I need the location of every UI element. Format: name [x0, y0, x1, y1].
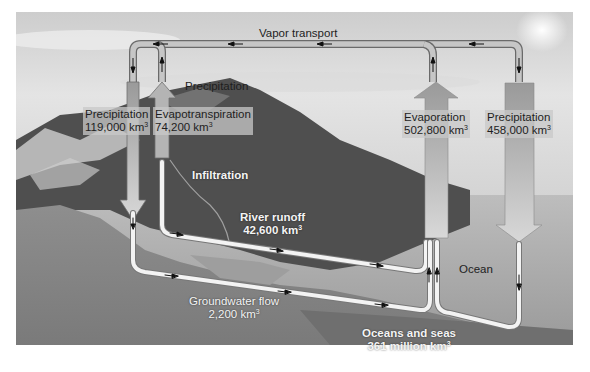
oceans-and-seas-name: Oceans and seas	[362, 327, 456, 340]
precipitation-top-label: Precipitation	[185, 80, 248, 93]
groundwater-flow-name: Groundwater flow	[189, 295, 279, 308]
evapotranspiration-name: Evapotranspiration	[155, 108, 251, 121]
groundwater-flow-label: Groundwater flow 2,200 km3	[189, 295, 279, 321]
precipitation-land-name: Precipitation	[85, 108, 148, 121]
river-runoff-label: River runoff 42,600 km3	[240, 211, 305, 237]
evapotranspiration-value: 74,200 km3	[155, 121, 251, 134]
evaporation-name: Evaporation	[404, 111, 468, 124]
river-runoff-name: River runoff	[240, 211, 305, 224]
evaporation-label: Evaporation 502,800 km3	[402, 110, 470, 138]
evapotranspiration-label: Evapotranspiration 74,200 km3	[153, 107, 253, 135]
evaporation-value: 502,800 km3	[404, 124, 468, 137]
precipitation-land-label: Precipitation 119,000 km3	[83, 107, 150, 135]
precipitation-ocean-label: Precipitation 458,000 km3	[485, 110, 553, 138]
oceans-and-seas-value: 361 million km3	[362, 340, 456, 353]
vapor-transport-label: Vapor transport	[259, 27, 337, 40]
water-cycle-diagram	[0, 0, 590, 372]
oceans-and-seas-label: Oceans and seas 361 million km3	[362, 327, 456, 353]
groundwater-flow-value: 2,200 km3	[189, 308, 279, 321]
sun	[516, 8, 568, 52]
infiltration-label: Infiltration	[192, 169, 248, 182]
precipitation-ocean-name: Precipitation	[487, 111, 551, 124]
precipitation-land-value: 119,000 km3	[85, 121, 148, 134]
ocean-label: Ocean	[459, 263, 493, 276]
precipitation-ocean-value: 458,000 km3	[487, 124, 551, 137]
river-runoff-value: 42,600 km3	[240, 224, 305, 237]
